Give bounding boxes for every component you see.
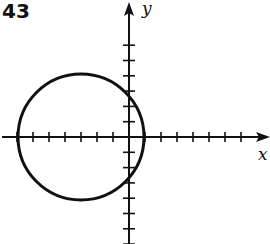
x-axis-label: x — [258, 144, 268, 164]
coordinate-plane: y x — [0, 0, 270, 244]
y-axis-label: y — [141, 0, 152, 18]
